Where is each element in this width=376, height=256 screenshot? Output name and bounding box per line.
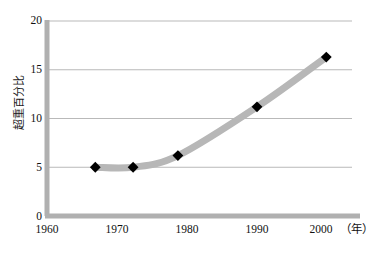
data-point-marker bbox=[90, 162, 101, 173]
series-line bbox=[95, 57, 326, 168]
chart-container: 超重百分比 20 15 10 5 0 1960 1970 1980 1990 2… bbox=[0, 0, 376, 256]
plot-area bbox=[0, 0, 376, 256]
